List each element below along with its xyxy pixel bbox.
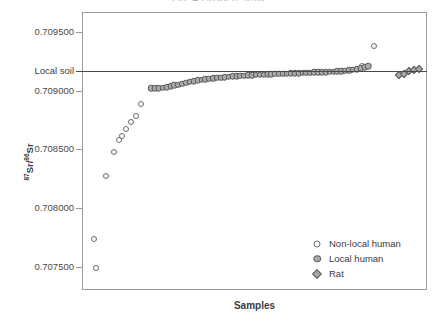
y-axis-title-sr2: Sr: [24, 143, 35, 153]
data-point-non-local-human: [371, 43, 377, 49]
y-axis-title: 87Sr/86Sr: [23, 143, 35, 180]
y-axis-tick-mark: [76, 149, 82, 150]
y-axis-tick-mark: [76, 267, 82, 268]
legend-filled-circle-icon: [312, 254, 322, 264]
data-point-non-local-human: [123, 126, 129, 132]
legend-item: Non-local human: [312, 236, 424, 251]
y-axis-tick-label: 0.709500: [34, 27, 74, 37]
y-axis-title-sup-86: 86: [23, 153, 30, 160]
legend-item: Rat: [312, 266, 424, 281]
data-point-non-local-human: [138, 101, 144, 107]
legend-item-label: Rat: [329, 268, 344, 279]
y-axis-tick-label: 0.707500: [34, 262, 74, 272]
legend-marker-symbol: [312, 269, 322, 279]
y-axis-tick-mark: [76, 91, 82, 92]
y-axis-tick-label: 0.708000: [34, 203, 74, 213]
legend-marker-symbol: [314, 240, 321, 247]
legend-item-label: Non-local human: [329, 238, 401, 249]
local-soil-label: Local soil: [34, 66, 74, 76]
data-point-non-local-human: [111, 149, 117, 155]
data-point-non-local-human: [91, 236, 97, 242]
y-axis-tick-mark: [76, 208, 82, 209]
data-point-local-human: [365, 63, 372, 70]
data-point-non-local-human: [133, 113, 139, 119]
y-axis-title-sup-87: 87: [23, 173, 30, 180]
legend: Non-local humanLocal humanRat: [312, 236, 424, 281]
strontium-isotope-scatter-figure: Fig. 4 Gosden Strait 0.7095000.7090000.7…: [0, 0, 437, 324]
y-axis-tick-labels: 0.7095000.7090000.7085000.7080000.707500…: [0, 0, 74, 324]
y-axis-title-sr1: Sr/: [24, 161, 35, 174]
legend-open-circle-icon: [312, 239, 322, 249]
data-point-non-local-human: [103, 173, 109, 179]
legend-diamond-icon: [312, 269, 322, 279]
legend-item: Local human: [312, 251, 424, 266]
x-axis-title: Samples: [82, 300, 427, 311]
y-axis-tick-label: 0.708500: [34, 144, 74, 154]
y-axis-tick-label: 0.709000: [34, 86, 74, 96]
data-point-non-local-human: [93, 265, 99, 271]
y-axis-tick-mark: [76, 32, 82, 33]
local-soil-tick-mark: [76, 71, 82, 72]
legend-item-label: Local human: [329, 253, 383, 264]
local-soil-reference-line: [82, 71, 427, 72]
legend-marker-symbol: [313, 255, 321, 263]
data-point-non-local-human: [128, 119, 134, 125]
data-point-non-local-human: [119, 133, 125, 139]
